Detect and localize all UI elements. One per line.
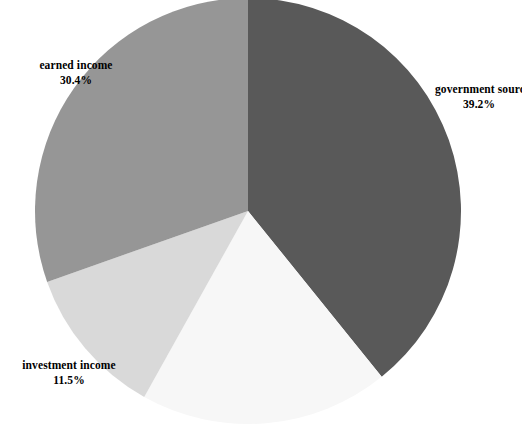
- slice-label-investment-income: investment income 11.5%: [0, 358, 139, 388]
- pie-chart-figure: earned income 30.4% government sources 3…: [0, 0, 522, 425]
- slice-label-earned-income-name: earned income: [12, 58, 140, 73]
- slice-label-investment-income-name: investment income: [0, 358, 139, 373]
- slice-label-government-sources-percent: 39.2%: [435, 97, 522, 112]
- slice-label-earned-income: earned income 30.4%: [12, 58, 140, 88]
- slice-label-investment-income-percent: 11.5%: [0, 373, 139, 388]
- slice-label-government-sources-name: government sources: [435, 82, 522, 97]
- slice-label-government-sources: government sources 39.2%: [435, 82, 522, 112]
- slice-label-earned-income-percent: 30.4%: [12, 73, 140, 88]
